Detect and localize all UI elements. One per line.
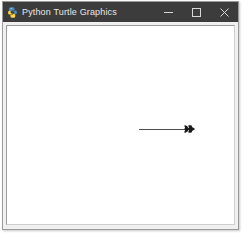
window-titlebar[interactable]: Python Turtle Graphics [3, 2, 238, 22]
window-client-area [3, 22, 238, 229]
canvas-frame [6, 25, 235, 225]
turtle-canvas[interactable] [7, 26, 235, 225]
python-turtle-icon [6, 6, 19, 19]
close-button[interactable] [210, 2, 238, 22]
close-icon [219, 7, 230, 18]
screen-root: Python Turtle Graphics [0, 0, 248, 238]
minimize-icon [163, 7, 174, 18]
turtle-graphics-window: Python Turtle Graphics [2, 1, 239, 230]
canvas-background [7, 26, 235, 225]
minimize-button[interactable] [154, 2, 182, 22]
maximize-icon [191, 7, 202, 18]
window-title: Python Turtle Graphics [22, 2, 154, 22]
maximize-button[interactable] [182, 2, 210, 22]
